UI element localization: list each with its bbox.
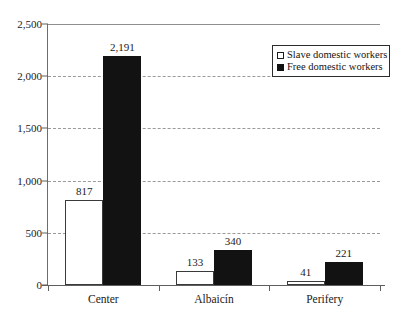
x-axis-category-label: Albaicín xyxy=(159,294,270,306)
bar-perifery-slave xyxy=(287,281,325,285)
chart-legend: Slave domestic workers Free domestic wor… xyxy=(272,45,390,77)
y-axis-tick-label: 1,500 xyxy=(0,123,42,134)
gridline xyxy=(48,24,380,25)
y-axis-tick-label: 500 xyxy=(0,227,42,238)
bar-value-label: 340 xyxy=(204,236,262,247)
bar-value-label: 133 xyxy=(166,257,224,268)
bar-albaicín-slave xyxy=(176,271,214,285)
gridline xyxy=(48,181,380,182)
legend-item-free-domestic-workers: Free domestic workers xyxy=(277,61,385,73)
legend-label: Slave domestic workers xyxy=(287,49,387,61)
bar-value-label: 817 xyxy=(55,186,113,197)
bar-center-free xyxy=(103,56,141,285)
y-axis-tick-label: 1,000 xyxy=(0,175,42,186)
bar-value-label: 41 xyxy=(277,267,335,278)
legend-item-slave-domestic-workers: Slave domestic workers xyxy=(277,49,385,61)
legend-label: Free domestic workers xyxy=(287,61,383,73)
x-axis-line xyxy=(42,285,385,286)
y-axis-tick-label: 0 xyxy=(0,280,42,291)
x-axis-category-label: Perifery xyxy=(269,294,380,306)
bar-chart: 05001,0001,5002,0002,500 CenterAlbaicínP… xyxy=(0,0,406,319)
bar-center-slave xyxy=(65,200,103,285)
legend-swatch-filled-square-icon xyxy=(277,64,284,71)
x-axis-category-label: Center xyxy=(48,294,159,306)
y-axis-tick-label: 2,500 xyxy=(0,19,42,30)
y-axis-tick-label: 2,000 xyxy=(0,71,42,82)
bar-value-label: 2,191 xyxy=(93,42,151,53)
x-axis-tick-mark xyxy=(269,285,270,291)
x-axis-tick-mark xyxy=(48,285,49,291)
legend-swatch-open-square-icon xyxy=(277,52,284,59)
x-axis-tick-mark xyxy=(380,285,381,291)
x-axis-tick-mark xyxy=(159,285,160,291)
gridline xyxy=(48,128,380,129)
bar-value-label: 221 xyxy=(315,248,373,259)
